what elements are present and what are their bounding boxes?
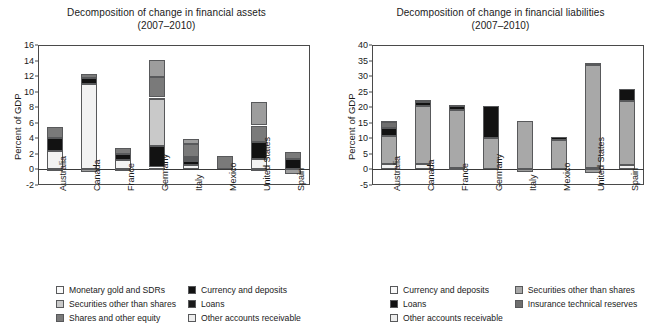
legend-item[interactable]: Currency and deposits xyxy=(188,283,301,296)
legend-column: Monetary gold and SDRsSecurities other t… xyxy=(56,283,176,325)
bar-segment xyxy=(251,102,267,126)
chart-title-assets: Decomposition of change in financial ass… xyxy=(0,6,333,32)
y-tick-mark xyxy=(35,91,38,92)
y-tick-mark xyxy=(369,153,372,154)
y-tick-mark xyxy=(369,91,372,92)
legend-item[interactable]: Loans xyxy=(390,297,503,310)
bar-segment xyxy=(415,106,431,164)
figure-root: Decomposition of change in financial ass… xyxy=(0,0,667,328)
legend-item[interactable]: Currency and deposits xyxy=(390,283,503,296)
legend-item[interactable]: Other accounts receivable xyxy=(390,311,503,324)
bar-segment xyxy=(81,84,97,169)
y-tick-label: 0 xyxy=(363,165,368,174)
bar-segment xyxy=(585,63,601,65)
y-tick-label: 16 xyxy=(24,41,34,50)
y-tick-label: 40 xyxy=(358,41,368,50)
bar-segment xyxy=(619,101,635,165)
y-tick-label: 10 xyxy=(24,87,34,96)
x-tick-label: France xyxy=(461,163,470,191)
legend-swatch-icon xyxy=(515,286,523,294)
chart-panel-liabilities: Decomposition of change in financial lia… xyxy=(334,0,667,328)
legend-swatch-icon xyxy=(390,314,398,322)
legend-label: Securities other than shares xyxy=(69,299,176,309)
bar-segment xyxy=(149,77,165,97)
legend-item[interactable]: Insurance technical reserves xyxy=(515,297,637,310)
legend-swatch-icon xyxy=(515,300,523,308)
y-tick-mark xyxy=(35,107,38,108)
stacked-bar xyxy=(183,45,199,185)
bar-segment xyxy=(551,137,567,140)
x-tick-label: United States xyxy=(597,137,606,191)
x-tick-label: France xyxy=(127,163,136,191)
bar-segment xyxy=(47,127,63,138)
x-tick-label: Germany xyxy=(161,154,170,191)
y-tick-label: 15 xyxy=(358,118,368,127)
x-tick-label: Canada xyxy=(93,159,102,191)
bar-segment xyxy=(183,139,199,144)
y-tick-mark xyxy=(35,45,38,46)
y-axis-label-liabilities: Percent of GDP xyxy=(346,93,357,160)
y-tick-mark xyxy=(35,60,38,61)
legend-column: Currency and depositsLoansOther accounts… xyxy=(188,283,301,325)
legend-label: Shares and other equity xyxy=(69,313,160,323)
legend-label: Currency and deposits xyxy=(201,285,287,295)
legend-label: Loans xyxy=(201,299,224,309)
y-tick-label: 2 xyxy=(29,149,34,158)
legend-item[interactable]: Monetary gold and SDRs xyxy=(56,283,176,296)
y-tick-label: -5 xyxy=(360,181,368,190)
bar-segment xyxy=(115,154,131,160)
legend-liabilities: Currency and depositsLoansOther accounts… xyxy=(334,283,667,325)
legend-item[interactable]: Loans xyxy=(188,297,301,310)
y-tick-mark xyxy=(35,138,38,139)
x-tick-label: Mexico xyxy=(229,162,238,191)
chart-title-line2: (2007–2010) xyxy=(0,19,333,32)
chart-title-line1: Decomposition of change in financial ass… xyxy=(67,7,266,18)
x-tick-label: United States xyxy=(263,137,272,191)
x-tick-label: Italy xyxy=(529,174,538,191)
legend-column: Securities other than sharesInsurance te… xyxy=(515,283,637,325)
y-axis-label-assets: Percent of GDP xyxy=(12,93,23,160)
legend-swatch-icon xyxy=(188,286,196,294)
legend-label: Loans xyxy=(403,299,426,309)
legend-item[interactable]: Securities other than shares xyxy=(515,283,637,296)
bar-segment-negative xyxy=(517,169,533,171)
bar-segment xyxy=(449,110,465,168)
legend-item[interactable]: Shares and other equity xyxy=(56,311,176,324)
y-tick-label: 12 xyxy=(24,72,34,81)
y-tick-mark xyxy=(35,76,38,77)
chart-panel-assets: Decomposition of change in financial ass… xyxy=(0,0,333,328)
legend-item[interactable]: Securities other than shares xyxy=(56,297,176,310)
chart-title-line1: Decomposition of change in financial lia… xyxy=(396,7,604,18)
y-tick-label: -2 xyxy=(26,181,34,190)
y-tick-label: 4 xyxy=(29,134,34,143)
bar-segment xyxy=(183,157,199,159)
y-tick-mark xyxy=(369,122,372,123)
legend-swatch-icon xyxy=(390,300,398,308)
y-tick-mark xyxy=(369,76,372,77)
bar-segment xyxy=(517,121,533,169)
legend-swatch-icon xyxy=(56,286,64,294)
legend-swatch-icon xyxy=(56,314,64,322)
x-tick-label: Spain xyxy=(631,168,640,191)
y-tick-mark xyxy=(369,185,372,186)
y-tick-label: 0 xyxy=(29,165,34,174)
y-tick-mark xyxy=(35,122,38,123)
bar-segment xyxy=(81,78,97,85)
bar-segment xyxy=(183,165,199,170)
y-tick-mark xyxy=(369,60,372,61)
y-tick-mark xyxy=(369,138,372,139)
bar-segment xyxy=(149,98,165,100)
y-tick-mark xyxy=(369,107,372,108)
legend-label: Insurance technical reserves xyxy=(528,299,637,309)
bar-segment xyxy=(449,105,465,107)
y-tick-label: 8 xyxy=(29,103,34,112)
legend-swatch-icon xyxy=(188,300,196,308)
legend-item[interactable]: Other accounts receivable xyxy=(188,311,301,324)
y-tick-label: 30 xyxy=(358,72,368,81)
bar-segment xyxy=(183,159,199,161)
bar-segment xyxy=(115,148,131,154)
bar-segment xyxy=(619,89,635,101)
legend-label: Currency and deposits xyxy=(403,285,489,295)
stacked-bar xyxy=(285,45,301,185)
stacked-bar xyxy=(517,45,533,185)
